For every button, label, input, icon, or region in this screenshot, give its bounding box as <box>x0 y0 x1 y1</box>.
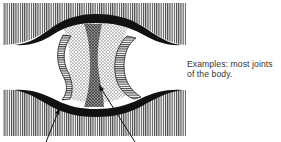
caption: Examples: most joints of the body. <box>187 60 281 79</box>
caption-line-2: of the body. <box>187 70 281 80</box>
